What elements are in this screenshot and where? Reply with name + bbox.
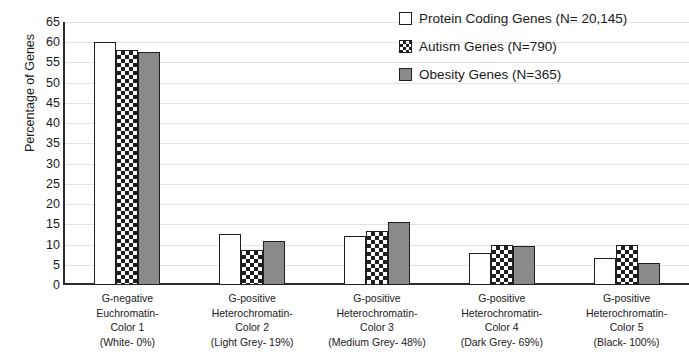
x-axis-tick-label: G-positiveHeterochromatin-Color 3(Medium…: [315, 291, 440, 349]
x-axis-tick-label: G-positiveHeterochromatin-Color 5(Black-…: [564, 291, 689, 349]
y-axis-tick-label: 0: [53, 279, 60, 292]
x-axis-tick-label-line: G-positive: [315, 291, 440, 306]
x-axis-tick-label-line: (Medium Grey- 48%): [315, 335, 440, 350]
bar-group: [190, 22, 315, 285]
y-axis-tick-label: 25: [46, 178, 60, 191]
x-axis-tick-label-line: (Light Grey- 19%): [190, 335, 315, 350]
y-axis-tick-label: 45: [46, 97, 60, 110]
x-axis-tick-label-line: (Black- 100%): [564, 335, 689, 350]
legend-label: Autism Genes (N=790): [419, 39, 557, 54]
bar: [491, 245, 513, 285]
y-axis-tick-label: 10: [46, 238, 60, 251]
bar: [616, 245, 638, 285]
x-axis-tick-label-line: (Dark Grey- 69%): [439, 335, 564, 350]
y-axis-tick-label: 20: [46, 198, 60, 211]
x-axis-tick-label-line: Heterochromatin-: [564, 306, 689, 321]
legend-label: Protein Coding Genes (N= 20,145): [419, 11, 627, 26]
bar-group: [65, 22, 190, 285]
y-axis-tick-label: 30: [46, 157, 60, 170]
bar: [94, 42, 116, 285]
y-axis-tick-labels: 05101520253035404550556065: [26, 0, 60, 364]
y-axis-tick-label: 55: [46, 56, 60, 69]
legend-item: Obesity Genes (N=365): [399, 62, 689, 86]
x-axis-tick-label-line: Heterochromatin-: [190, 306, 315, 321]
x-axis-tick-label: G-positiveHeterochromatin-Color 2(Light …: [190, 291, 315, 349]
x-axis-tick-label-line: Color 2: [190, 320, 315, 335]
x-axis-tick-labels: G-negativeEuchromatin-Color 1(White- 0%)…: [65, 291, 689, 364]
bar: [116, 50, 138, 285]
y-axis-tick-label: 35: [46, 137, 60, 150]
y-axis-tick-label: 15: [46, 218, 60, 231]
bar: [513, 246, 535, 285]
bar: [344, 236, 366, 285]
x-axis-tick-label-line: Heterochromatin-: [439, 306, 564, 321]
x-axis-tick-label-line: (White- 0%): [65, 335, 190, 350]
bar: [263, 241, 285, 286]
y-axis-tick-label: 50: [46, 76, 60, 89]
x-axis-tick-label: G-negativeEuchromatin-Color 1(White- 0%): [65, 291, 190, 349]
y-axis-tick-label: 40: [46, 117, 60, 130]
legend-swatch-icon: [399, 40, 412, 53]
x-axis-tick-label-line: Color 3: [315, 320, 440, 335]
x-axis-tick-label-line: G-positive: [439, 291, 564, 306]
legend-label: Obesity Genes (N=365): [419, 67, 561, 82]
y-axis-tick-label: 65: [46, 16, 60, 29]
bar: [366, 231, 388, 285]
legend-swatch-icon: [399, 12, 412, 25]
x-axis-tick-label-line: Heterochromatin-: [315, 306, 440, 321]
bar: [219, 234, 241, 285]
bar: [138, 52, 160, 285]
bar-chart: Percentage of Genes 05101520253035404550…: [0, 0, 689, 364]
x-axis-tick-label-line: Euchromatin-: [65, 306, 190, 321]
bar: [388, 222, 410, 285]
x-axis-tick-label-line: Color 1: [65, 320, 190, 335]
legend-item: Protein Coding Genes (N= 20,145): [399, 6, 689, 30]
x-axis-tick-label-line: G-negative: [65, 291, 190, 306]
x-axis-tick-label-line: G-positive: [564, 291, 689, 306]
legend-swatch-icon: [399, 68, 412, 81]
y-axis-tick-label: 60: [46, 36, 60, 49]
bar: [594, 258, 616, 285]
x-axis-tick-label: G-positiveHeterochromatin-Color 4(Dark G…: [439, 291, 564, 349]
legend-item: Autism Genes (N=790): [399, 34, 689, 58]
chart-legend: Protein Coding Genes (N= 20,145)Autism G…: [399, 6, 689, 90]
x-axis-tick-label-line: Color 4: [439, 320, 564, 335]
y-axis-tick-label: 5: [53, 259, 60, 272]
bar: [241, 250, 263, 285]
bar: [469, 253, 491, 285]
x-axis-tick-label-line: Color 5: [564, 320, 689, 335]
x-axis-tick-label-line: G-positive: [190, 291, 315, 306]
bar: [638, 263, 660, 285]
